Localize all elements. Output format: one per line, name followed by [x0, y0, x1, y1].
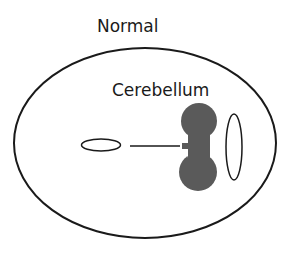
cerebellum-label: Cerebellum	[112, 80, 209, 100]
cisterna-magna-ellipse	[226, 114, 242, 180]
skull-outline	[14, 48, 276, 238]
diagram-canvas: Normal Cerebellum	[0, 0, 298, 253]
left-ventricle-ellipse	[82, 139, 121, 151]
cerebellum-peduncle	[182, 143, 190, 149]
diagram-title: Normal	[97, 16, 159, 36]
cerebellum-notch-right	[210, 134, 212, 158]
